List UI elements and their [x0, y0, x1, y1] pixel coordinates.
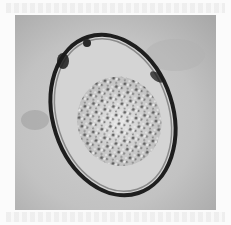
dark-spot	[83, 39, 91, 47]
bleed-through-text-top	[6, 3, 225, 13]
bleed-through-text-bottom	[6, 212, 225, 222]
page	[0, 0, 231, 225]
micrograph-photo	[15, 15, 216, 210]
